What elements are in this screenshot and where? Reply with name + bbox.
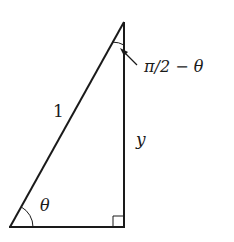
- theta-arc: [21, 207, 33, 227]
- vertical-side-label: y: [135, 129, 146, 149]
- top-angle-label: π/2 − θ: [143, 57, 204, 76]
- right-triangle-diagram: 1 y θ π/2 − θ: [0, 0, 234, 242]
- hypotenuse-line: [10, 22, 124, 227]
- theta-label: θ: [40, 196, 50, 215]
- top-angle-arc: [113, 42, 124, 45]
- right-angle-marker: [113, 216, 124, 227]
- hypotenuse-label: 1: [53, 101, 64, 121]
